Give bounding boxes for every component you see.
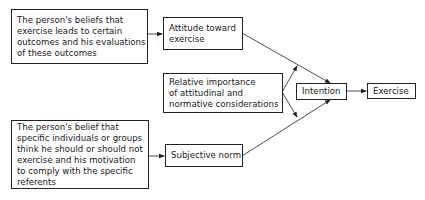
- node-text-line: Attitude toward: [169, 23, 237, 34]
- node-text-line: exercise leads to certain: [17, 26, 142, 37]
- node-text-line: The person's beliefs that: [17, 15, 142, 26]
- node-text-line: to comply with the specific: [17, 166, 143, 177]
- node-text-line: think he should or should not: [17, 144, 143, 155]
- node-intention: Intention: [296, 83, 347, 100]
- node-text-line: exercise: [169, 34, 237, 45]
- node-behavioral-beliefs: The person's beliefs that exercise leads…: [11, 9, 148, 64]
- node-text-line: Relative importance: [169, 77, 277, 88]
- node-text-line: referents: [17, 177, 143, 188]
- node-text-line: Subjective norm: [171, 150, 237, 161]
- node-text-line: exercise and his motivation: [17, 155, 143, 166]
- node-text-line: Exercise: [373, 86, 410, 97]
- arrow-relative-importance-to-attitude-link: [282, 66, 297, 92]
- node-relative-importance: Relative importance of attitudinal and n…: [163, 73, 283, 113]
- node-text-line: specific individuals or groups: [17, 133, 143, 144]
- arrow-relative-importance-to-norm-link: [282, 92, 297, 117]
- node-exercise: Exercise: [367, 83, 416, 99]
- node-attitude: Attitude toward exercise: [163, 17, 243, 50]
- node-text-line: of attitudinal and: [169, 88, 277, 99]
- node-text-line: of these outcomes: [17, 48, 142, 59]
- node-subjective-norm: Subjective norm: [165, 144, 243, 167]
- node-normative-beliefs: The person's belief that specific indivi…: [11, 120, 149, 189]
- node-text-line: normative considerations: [169, 99, 277, 110]
- node-text-line: outcomes and his evaluations: [17, 37, 142, 48]
- node-text-line: The person's belief that: [17, 122, 143, 133]
- node-text-line: Intention: [302, 86, 341, 97]
